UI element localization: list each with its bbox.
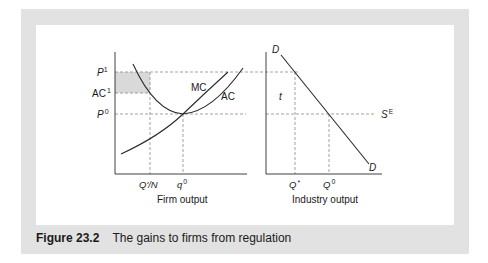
qn-label: Q'/N: [139, 179, 158, 190]
qstar-label: Q*: [289, 179, 300, 190]
shaded-gain-area: [115, 72, 150, 93]
q0-industry-label: Q0: [323, 178, 335, 190]
p1-label: P1: [97, 66, 108, 78]
p0-label: P0: [97, 108, 109, 120]
tax-label: t: [279, 91, 283, 102]
firm-output-label: Firm output: [157, 194, 208, 205]
supply-se-label: SE: [381, 108, 394, 120]
left-panel: P1 AC1 P0 MC AC Q'/N q0 Firm output: [92, 52, 300, 205]
ac1-label: AC1: [92, 87, 111, 99]
industry-output-label: Industry output: [292, 194, 358, 205]
demand-label-top: D: [272, 44, 279, 55]
ac-label: AC: [221, 91, 235, 102]
demand-label-bottom: D: [369, 162, 376, 173]
demand-curve: [281, 55, 369, 164]
q0-label: q0: [177, 178, 187, 190]
right-panel: D D t SE Q* Q0 Industry output: [266, 44, 394, 205]
mc-label: MC: [191, 82, 207, 93]
diagram-svg: P1 AC1 P0 MC AC Q'/N q0 Firm output: [0, 0, 488, 263]
